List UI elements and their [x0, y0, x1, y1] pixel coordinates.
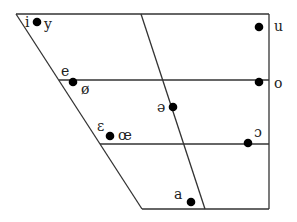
vowel-symbol-label: ɔ [254, 124, 262, 140]
front-edge [16, 14, 142, 209]
vowel-dots [33, 18, 264, 207]
vowel-dot [33, 18, 42, 27]
vowel-symbol-label: e [61, 63, 69, 79]
vowel-symbol-label: a [174, 186, 182, 202]
vowel-symbol-label: ə [157, 99, 165, 115]
vowel-symbol-label: i [25, 14, 30, 30]
vowel-chart: iyueøoəɛœɔa [0, 0, 297, 222]
vowel-trapezoid [16, 14, 269, 209]
vowel-symbol-label: o [274, 75, 282, 91]
vowel-symbol-label: ø [81, 81, 89, 97]
vowel-dot [169, 103, 178, 112]
vowel-dot [255, 78, 264, 87]
vowel-dot [255, 23, 264, 32]
vowel-dot [244, 139, 253, 148]
vowel-symbol-label: ɛ [97, 118, 104, 134]
vowel-symbol-label: œ [118, 127, 132, 143]
vowel-labels: iyueøoəɛœɔa [25, 14, 283, 202]
vowel-dot [106, 132, 115, 141]
vowel-symbol-label: u [274, 18, 283, 34]
vowel-dot [187, 198, 196, 207]
central-line [141, 14, 205, 209]
vowel-dot [69, 78, 78, 87]
vowel-symbol-label: y [43, 16, 52, 32]
